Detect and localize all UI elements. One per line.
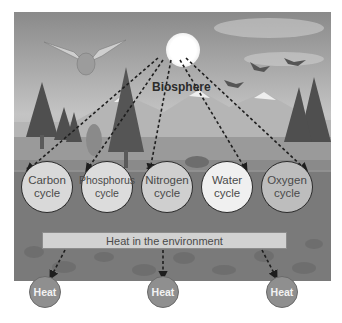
cycle-label: cycle [95, 187, 119, 200]
cycle-label: Phosphorus [79, 174, 135, 187]
arrow-to-carbon [28, 58, 158, 170]
cycle-label: cycle [34, 187, 60, 200]
cycle-label: Nitrogen [145, 174, 188, 187]
arrow-to-phosphorus [87, 60, 163, 170]
arrow-to-water [180, 60, 246, 170]
oxygen-cycle-node: Oxygen cycle [261, 161, 313, 213]
cycle-label: Water [212, 174, 242, 187]
nitrogen-cycle-node: Nitrogen cycle [141, 161, 193, 213]
cycle-label: cycle [214, 187, 240, 200]
water-cycle-node: Water cycle [201, 161, 253, 213]
biosphere-label: Biosphere [152, 80, 211, 94]
arrow-heat-left [51, 250, 65, 277]
phosphorus-cycle-node: Phosphorus cycle [81, 161, 133, 213]
cycle-label: Oxygen [267, 174, 307, 187]
cycle-label: Carbon [28, 174, 66, 187]
arrow-heat-right [262, 250, 276, 277]
heat-node-left: Heat [29, 276, 61, 308]
arrow-to-oxygen [186, 58, 306, 170]
heat-node-right: Heat [266, 276, 298, 308]
heat-in-environment-bar: Heat in the environment [42, 232, 287, 249]
cycle-label: cycle [274, 187, 300, 200]
carbon-cycle-node: Carbon cycle [21, 161, 73, 213]
arrow-to-nitrogen [150, 60, 171, 170]
heat-node-center: Heat [147, 276, 179, 308]
cycle-label: cycle [154, 187, 180, 200]
